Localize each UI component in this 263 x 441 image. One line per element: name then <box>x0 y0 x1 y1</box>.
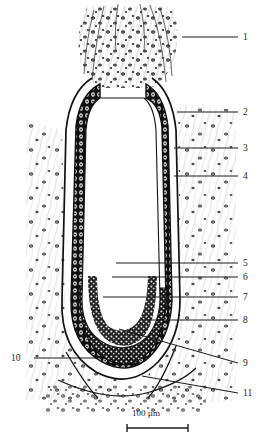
scale-bar <box>0 0 263 441</box>
histology-figure: 1 2 3 4 5 6 7 8 9 10 11 100 µm <box>0 0 263 441</box>
